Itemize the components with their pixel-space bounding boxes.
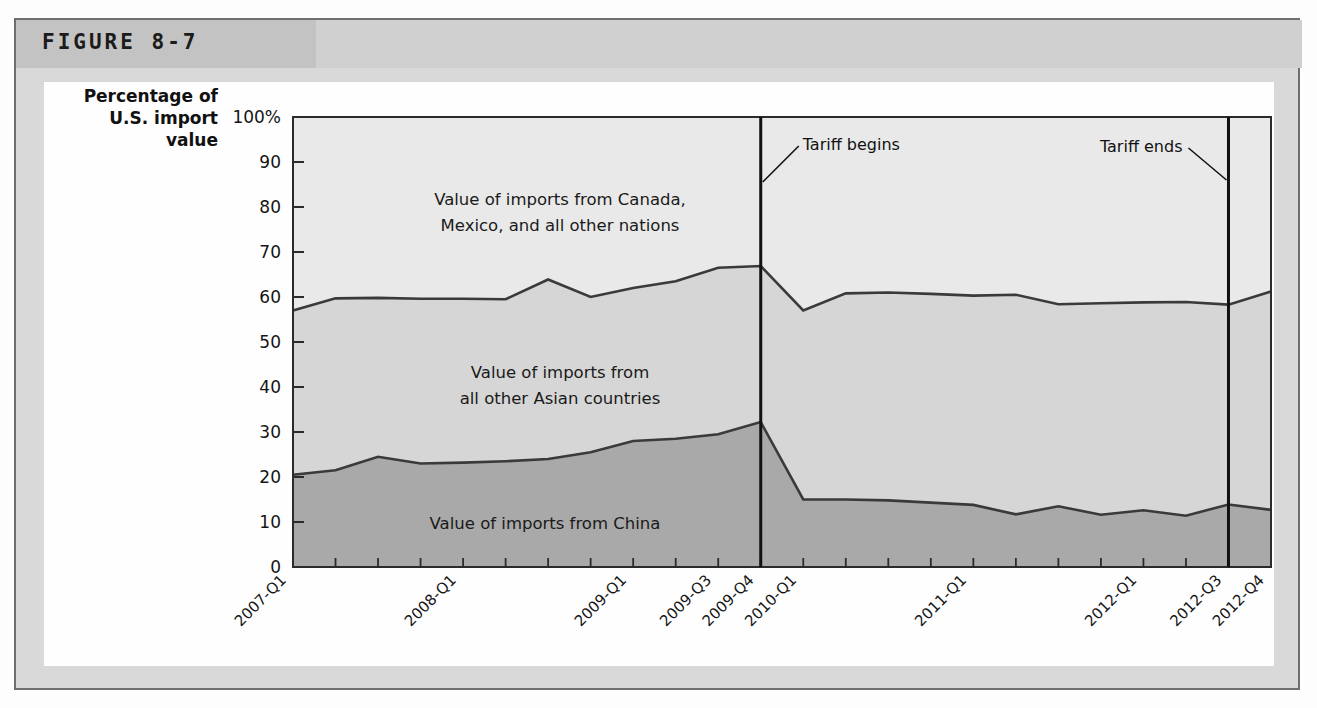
band-middle-label-line1: Value of imports from [471, 363, 649, 382]
tariff-begins-label: Tariff begins [802, 135, 900, 154]
y-tick-label: 20 [259, 467, 281, 487]
figure-root: FIGURE 8-7 Percentage of U.S. import val… [0, 0, 1317, 708]
y-tick-label: 80 [259, 197, 281, 217]
y-tick-label: 30 [259, 422, 281, 442]
x-tick-label: 2012-Q1 [1081, 571, 1140, 630]
tariff-ends-label: Tariff ends [1099, 137, 1183, 156]
y-tick-label: 50 [259, 332, 281, 352]
y-tick-label: 90 [259, 152, 281, 172]
band-middle-label-line2: all other Asian countries [460, 389, 661, 408]
y-tick-label: 60 [259, 287, 281, 307]
x-tick-label: 2007-Q1 [231, 571, 290, 630]
x-tick-label: 2011-Q1 [911, 571, 970, 630]
stacked-area-chart: 100%90807060504030201002007-Q12008-Q1200… [0, 0, 1317, 708]
y-tick-label: 100% [232, 107, 281, 127]
y-tick-label: 10 [259, 512, 281, 532]
band-bottom-label: Value of imports from China [430, 514, 661, 533]
x-tick-label: 2008-Q1 [401, 571, 460, 630]
band-top-label-line1: Value of imports from Canada, [434, 190, 686, 209]
y-tick-label: 40 [259, 377, 281, 397]
band-top-label-line2: Mexico, and all other nations [441, 216, 680, 235]
x-tick-label: 2009-Q1 [571, 571, 630, 630]
y-tick-label: 70 [259, 242, 281, 262]
